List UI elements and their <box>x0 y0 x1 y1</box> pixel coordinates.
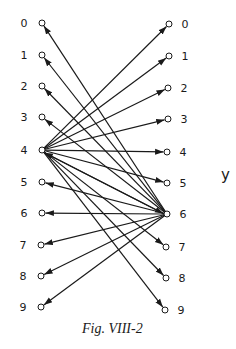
bipartite-arrow-diagram: 01234567890123456789 y Fig. VIII-2 <box>0 0 236 349</box>
left-node-label-7: 7 <box>20 239 27 252</box>
right-node-0 <box>166 21 172 27</box>
right-node-label-8: 8 <box>179 272 186 285</box>
right-node-label-1: 1 <box>182 50 189 63</box>
edges-group <box>44 26 167 307</box>
left-node-9 <box>38 304 44 310</box>
right-node-label-5: 5 <box>180 177 187 190</box>
left-node-label-1: 1 <box>21 49 28 62</box>
right-node-label-0: 0 <box>182 18 189 31</box>
right-set-label: y <box>221 166 230 184</box>
figure-caption: Fig. VIII-2 <box>81 321 143 336</box>
right-node-5 <box>164 180 170 186</box>
left-node-5 <box>39 179 45 185</box>
left-node-label-8: 8 <box>20 270 27 283</box>
right-node-label-2: 2 <box>181 82 188 95</box>
right-node-1 <box>166 53 172 59</box>
left-node-7 <box>38 242 44 248</box>
edge-l4-to-r0 <box>44 26 166 147</box>
left-node-2 <box>39 83 45 89</box>
right-node-4 <box>164 149 170 155</box>
right-node-label-6: 6 <box>180 208 187 221</box>
left-node-label-5: 5 <box>21 176 28 189</box>
right-node-label-9: 9 <box>178 304 185 317</box>
right-node-8 <box>163 275 169 281</box>
left-node-4 <box>39 147 45 153</box>
edge-r6-to-l6 <box>45 213 164 214</box>
left-node-label-6: 6 <box>21 207 28 220</box>
left-node-label-0: 0 <box>21 17 28 30</box>
left-node-label-3: 3 <box>21 111 28 124</box>
left-node-label-4: 4 <box>21 144 28 157</box>
labels-group: 01234567890123456789 <box>20 17 189 317</box>
left-node-3 <box>39 114 45 120</box>
right-node-9 <box>162 307 168 313</box>
right-node-3 <box>165 116 171 122</box>
left-node-8 <box>38 273 44 279</box>
left-node-6 <box>39 210 45 216</box>
right-node-2 <box>165 85 171 91</box>
edge-r6-to-l4 <box>45 153 164 214</box>
right-node-label-3: 3 <box>181 113 188 126</box>
right-node-label-7: 7 <box>179 241 186 254</box>
left-node-1 <box>39 52 45 58</box>
edge-r6-to-l8 <box>44 215 164 274</box>
right-node-7 <box>163 244 169 250</box>
right-node-label-4: 4 <box>180 146 187 159</box>
left-node-0 <box>39 20 45 26</box>
left-node-label-2: 2 <box>21 80 28 93</box>
right-node-6 <box>164 211 170 217</box>
left-node-label-9: 9 <box>20 301 27 314</box>
